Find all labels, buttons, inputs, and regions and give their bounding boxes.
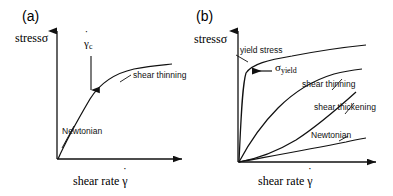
panel-a-tag: (a) bbox=[22, 9, 39, 23]
panel-b-y-axis-label: stressσ bbox=[194, 33, 227, 45]
panel-b-curve-newtonian bbox=[239, 138, 366, 162]
rheology-figure: (a) stressσ shear rate γ γc shear thinni… bbox=[0, 0, 393, 196]
panel-a-gamma-symbol: γ bbox=[84, 38, 89, 49]
panel-b-y-axis-text: stress bbox=[194, 32, 221, 46]
panel-a-y-axis-label: stressσ bbox=[15, 32, 48, 44]
panel-a-x-axis-symbol: γ bbox=[122, 175, 127, 187]
panel-a-critical-shear-rate-label: γc bbox=[84, 38, 92, 51]
panel-b-tag: (b) bbox=[196, 9, 213, 23]
panel-b-x-axis-symbol: γ bbox=[307, 175, 312, 187]
panel-b-label-shear-thinning: shear thinning bbox=[302, 80, 355, 89]
panel-b-sigma-subscript: yield bbox=[281, 66, 297, 75]
panel-a-y-axis-symbol: σ bbox=[42, 31, 48, 45]
panel-a-gamma-subscript: c bbox=[89, 42, 93, 51]
panel-b-plot bbox=[196, 0, 393, 196]
panel-b-x-axis-label: shear rate γ bbox=[258, 175, 313, 187]
panel-a-plot bbox=[0, 0, 196, 196]
panel-b-label-yield-stress: yield stress bbox=[240, 46, 283, 55]
panel-b-y-axis-symbol: σ bbox=[221, 32, 227, 46]
panel-b: (b) stressσ shear rate γ yield stress σy… bbox=[196, 0, 393, 196]
panel-a-label-newtonian: Newtonian bbox=[62, 127, 102, 136]
panel-a-y-axis-text: stress bbox=[15, 31, 42, 45]
panel-a-shear-thinning-leader bbox=[120, 75, 131, 82]
panel-a-x-axis-label: shear rate γ bbox=[73, 175, 128, 187]
panel-a: (a) stressσ shear rate γ γc shear thinni… bbox=[0, 0, 196, 196]
panel-a-label-shear-thinning: shear thinning bbox=[133, 71, 186, 80]
panel-a-x-axis-text: shear rate bbox=[73, 174, 119, 188]
panel-b-sigma-yield-label: σyield bbox=[275, 62, 297, 75]
panel-b-x-axis-text: shear rate bbox=[258, 174, 304, 188]
panel-b-label-newtonian: Newtonian bbox=[311, 131, 351, 140]
panel-b-label-shear-thickening: shear thickening bbox=[314, 103, 376, 112]
